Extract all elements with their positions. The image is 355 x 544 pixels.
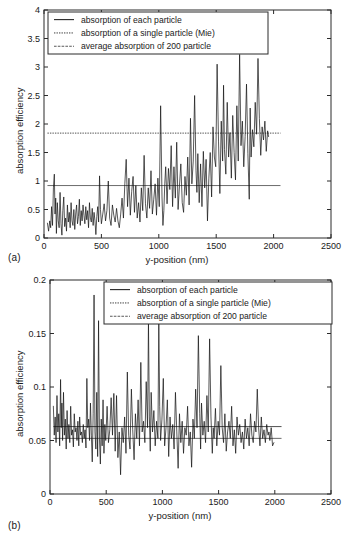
svg-text:0: 0 <box>47 497 52 507</box>
svg-text:4: 4 <box>35 5 40 15</box>
svg-text:2500: 2500 <box>321 241 341 251</box>
svg-text:0.1: 0.1 <box>33 382 46 392</box>
svg-text:absorption of each particle: absorption of each particle <box>137 285 238 295</box>
svg-text:0: 0 <box>41 241 46 251</box>
x-axis-label-a: y-position (nm) <box>146 254 209 265</box>
svg-text:absorption of a single particl: absorption of a single particle (Mie) <box>81 28 215 38</box>
svg-text:1500: 1500 <box>206 241 226 251</box>
svg-text:average absorption of 200 part: average absorption of 200 particle <box>137 311 267 321</box>
svg-text:1.5: 1.5 <box>27 148 40 158</box>
svg-text:0: 0 <box>41 489 46 499</box>
y-axis-label-b: absorption efficiency <box>14 351 25 437</box>
svg-text:2: 2 <box>35 119 40 129</box>
x-axis-label-b: y-position (nm) <box>149 510 212 521</box>
y-axis-label-a: absorption efficiency <box>14 88 25 174</box>
data-series-line <box>47 54 268 235</box>
chart-a-canvas: 0500100015002000250000.511.522.533.54abs… <box>0 0 355 272</box>
svg-text:0.15: 0.15 <box>28 329 46 339</box>
svg-text:absorption of each particle: absorption of each particle <box>81 15 182 25</box>
svg-text:absorption of a single particl: absorption of a single particle (Mie) <box>137 298 271 308</box>
svg-text:0.5: 0.5 <box>27 205 40 215</box>
svg-text:0.2: 0.2 <box>33 275 46 285</box>
panel-tag-a: (a) <box>8 252 21 263</box>
svg-text:2.5: 2.5 <box>27 91 40 101</box>
chart-b-canvas: 0500100015002000250000.050.10.150.2absor… <box>0 272 355 544</box>
svg-text:500: 500 <box>94 241 109 251</box>
figure-container: 0500100015002000250000.511.522.533.54abs… <box>0 0 355 544</box>
svg-text:2000: 2000 <box>265 497 285 507</box>
svg-text:1000: 1000 <box>149 241 169 251</box>
svg-text:500: 500 <box>99 497 114 507</box>
svg-text:1500: 1500 <box>209 497 229 507</box>
svg-text:1000: 1000 <box>152 497 172 507</box>
svg-text:2500: 2500 <box>321 497 341 507</box>
chart-panel-b: 0500100015002000250000.050.10.150.2absor… <box>0 272 355 544</box>
svg-text:3.5: 3.5 <box>27 34 40 44</box>
svg-text:average absorption of 200 part: average absorption of 200 particle <box>81 41 211 51</box>
svg-text:3: 3 <box>35 62 40 72</box>
svg-text:2000: 2000 <box>264 241 284 251</box>
svg-text:0.05: 0.05 <box>28 436 46 446</box>
chart-panel-a: 0500100015002000250000.511.522.533.54abs… <box>0 0 355 272</box>
svg-text:1: 1 <box>35 176 40 186</box>
panel-tag-b: (b) <box>8 520 21 531</box>
svg-text:0: 0 <box>35 233 40 243</box>
